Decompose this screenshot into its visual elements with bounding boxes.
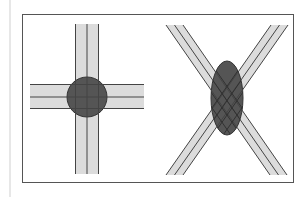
perpendicular-crossing-panel xyxy=(30,24,144,174)
diagram-canvas xyxy=(0,0,305,197)
